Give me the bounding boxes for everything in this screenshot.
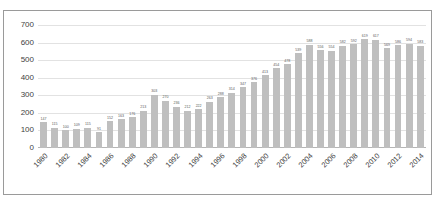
bar-value-label: 270	[162, 96, 168, 100]
bar-series: 1471151001091159115216317621330327023621…	[38, 25, 426, 148]
bar[interactable]: 270	[162, 101, 169, 148]
bar[interactable]: 212	[184, 111, 191, 148]
bar-value-label: 314	[229, 88, 235, 92]
bar[interactable]: 263	[206, 102, 213, 148]
x-axis-tick-label: 1980	[32, 152, 49, 169]
bar-value-label: 303	[151, 90, 157, 94]
bar[interactable]: 213	[140, 111, 147, 148]
bar-slot: 556	[315, 25, 326, 148]
bar[interactable]: 583	[417, 46, 424, 148]
bar[interactable]: 592	[350, 44, 357, 148]
bar-value-label: 109	[74, 124, 80, 128]
plot-area: 1471151001091159115216317621330327023621…	[38, 25, 426, 148]
bar[interactable]: 109	[73, 129, 80, 148]
chart-container: 0100200300400500600700 14711510010911591…	[3, 10, 432, 195]
y-axis-tick-label: 100	[8, 126, 34, 134]
bar-slot: 288	[215, 25, 226, 148]
bar-value-label: 556	[317, 46, 323, 50]
bar-slot: 569	[381, 25, 392, 148]
bar[interactable]: 100	[62, 130, 69, 148]
bar-value-label: 213	[140, 106, 146, 110]
bar[interactable]: 236	[173, 107, 180, 148]
bar-value-label: 586	[395, 41, 401, 45]
bar-value-label: 288	[218, 93, 224, 97]
bar[interactable]: 413	[262, 75, 269, 148]
bar[interactable]: 115	[84, 128, 91, 148]
bar-value-label: 554	[329, 46, 335, 50]
x-axis-slot: 1982	[60, 150, 71, 192]
bar[interactable]: 152	[107, 121, 114, 148]
y-axis-tick-label: 600	[8, 39, 34, 47]
x-axis-slot: 1994	[193, 150, 204, 192]
bar[interactable]: 115	[51, 128, 58, 148]
bar-slot: 147	[38, 25, 49, 148]
bar-slot: 263	[204, 25, 215, 148]
x-axis-slot: 2010	[370, 150, 381, 192]
bar[interactable]: 588	[306, 45, 313, 148]
y-axis-tick-label: 200	[8, 109, 34, 117]
bar[interactable]: 556	[317, 50, 324, 148]
bar-slot: 100	[60, 25, 71, 148]
x-axis-slot: 1984	[82, 150, 93, 192]
x-axis-slot: 1980	[38, 150, 49, 192]
bar[interactable]: 617	[372, 40, 379, 148]
bar[interactable]: 594	[406, 44, 413, 148]
bar[interactable]: 454	[273, 68, 280, 148]
bar[interactable]: 586	[395, 45, 402, 148]
x-axis-slot: 2004	[304, 150, 315, 192]
bar[interactable]: 478	[284, 64, 291, 148]
bar-value-label: 115	[85, 123, 91, 127]
bar-slot: 91	[93, 25, 104, 148]
x-axis-slot: 1998	[237, 150, 248, 192]
bar-value-label: 588	[306, 40, 312, 44]
bar-value-label: 594	[406, 39, 412, 43]
bar-value-label: 236	[173, 102, 179, 106]
bar-value-label: 478	[284, 60, 290, 64]
bar-value-label: 592	[351, 40, 357, 44]
bar-value-label: 115	[52, 123, 58, 127]
x-axis-slot: 2000	[260, 150, 271, 192]
x-axis-slot: 2006	[326, 150, 337, 192]
x-axis-slot: 2012	[393, 150, 404, 192]
bar-value-label: 583	[417, 41, 423, 45]
bar-slot: 583	[415, 25, 426, 148]
y-axis-tick-label: 0	[8, 144, 34, 152]
bar[interactable]: 176	[129, 117, 136, 148]
bar-value-label: 569	[384, 44, 390, 48]
bar[interactable]: 91	[96, 132, 103, 148]
bar[interactable]: 147	[40, 122, 47, 148]
chart-plot-wrapper: 0100200300400500600700 14711510010911591…	[4, 11, 431, 194]
bar-slot: 454	[271, 25, 282, 148]
bar-value-label: 454	[273, 64, 279, 68]
bar[interactable]: 376	[251, 82, 258, 148]
y-axis-tick-label: 300	[8, 91, 34, 99]
bar-slot: 539	[293, 25, 304, 148]
bar-value-label: 347	[240, 83, 246, 87]
bar[interactable]: 314	[228, 93, 235, 148]
x-axis-slot: 1990	[149, 150, 160, 192]
bar[interactable]: 619	[361, 39, 368, 148]
bar[interactable]: 163	[118, 119, 125, 148]
bar[interactable]: 554	[328, 51, 335, 148]
bar-value-label: 617	[373, 35, 379, 39]
bar[interactable]: 222	[195, 109, 202, 148]
bar-value-label: 539	[295, 49, 301, 53]
bar-slot: 582	[337, 25, 348, 148]
x-axis: 1980198119821983198419851986198719881989…	[38, 150, 426, 192]
bar[interactable]: 582	[339, 46, 346, 148]
bar[interactable]: 539	[295, 53, 302, 148]
bar-value-label: 91	[97, 128, 101, 132]
bar[interactable]: 347	[240, 87, 247, 148]
bar[interactable]: 569	[384, 48, 391, 148]
x-axis-slot: 2002	[282, 150, 293, 192]
bar[interactable]: 288	[217, 97, 224, 148]
bar-slot: 213	[138, 25, 149, 148]
bar-slot: 176	[127, 25, 138, 148]
bar-value-label: 263	[207, 97, 213, 101]
bar-value-label: 100	[63, 126, 69, 130]
x-axis-slot: 1992	[171, 150, 182, 192]
x-axis-slot: 1988	[127, 150, 138, 192]
bar-slot: 376	[248, 25, 259, 148]
bar[interactable]: 303	[151, 95, 158, 148]
bar-slot: 270	[160, 25, 171, 148]
